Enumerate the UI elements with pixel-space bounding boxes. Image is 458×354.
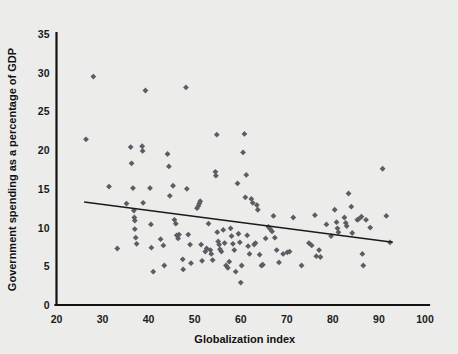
data-point-marker — [147, 185, 153, 191]
data-point-marker — [244, 232, 250, 238]
data-point-marker — [240, 150, 246, 156]
data-point-marker — [160, 242, 166, 248]
data-point-marker — [132, 226, 138, 232]
data-point-marker — [274, 247, 280, 253]
data-point-marker — [348, 204, 354, 210]
data-point-marker — [318, 254, 324, 260]
data-point-marker — [148, 245, 154, 251]
data-point-marker — [239, 263, 245, 269]
data-point-marker — [130, 185, 136, 191]
x-tick-label: 30 — [97, 313, 109, 325]
data-point-marker — [257, 252, 263, 258]
data-point-marker — [206, 221, 212, 227]
plot-area: 051015202530352030405060708090100Globali… — [0, 0, 458, 354]
y-tick-label: 25 — [38, 105, 50, 117]
data-point-marker — [228, 225, 234, 231]
data-point-marker — [360, 263, 366, 269]
data-point-marker — [276, 260, 282, 266]
data-point-marker — [139, 143, 145, 149]
data-point-marker — [220, 227, 226, 233]
data-point-marker — [180, 256, 186, 262]
data-point-marker — [231, 247, 237, 253]
y-tick-label: 30 — [38, 67, 50, 79]
data-point-marker — [367, 225, 373, 231]
data-point-marker — [161, 263, 167, 269]
data-point-marker — [316, 247, 322, 253]
data-point-marker — [324, 222, 330, 228]
data-point-marker — [247, 251, 253, 257]
data-point-marker — [166, 164, 172, 170]
data-point-marker — [272, 235, 278, 241]
data-point-marker — [185, 232, 191, 238]
data-point-marker — [134, 241, 140, 247]
data-point-marker — [222, 240, 228, 246]
x-tick-label: 80 — [327, 313, 339, 325]
data-point-marker — [237, 239, 243, 245]
y-tick-label: 10 — [38, 222, 50, 234]
data-point-marker — [83, 136, 89, 142]
y-tick-label: 0 — [44, 299, 50, 311]
data-point-marker — [210, 257, 216, 263]
data-point-marker — [214, 229, 220, 235]
data-point-marker — [383, 213, 389, 219]
data-point-marker — [226, 259, 232, 265]
data-point-marker — [332, 207, 338, 213]
data-point-marker — [148, 222, 154, 228]
data-point-marker — [170, 183, 176, 189]
data-point-marker — [90, 74, 96, 80]
data-point-marker — [363, 217, 369, 223]
data-point-marker — [150, 269, 156, 275]
data-point-marker — [242, 194, 248, 200]
data-point-marker — [143, 88, 149, 94]
x-tick-label: 40 — [143, 313, 155, 325]
data-point-marker — [167, 193, 173, 199]
data-point-marker — [380, 166, 386, 172]
data-point-marker — [184, 186, 190, 192]
data-point-marker — [114, 246, 120, 252]
data-point-marker — [187, 242, 193, 248]
data-point-marker — [213, 173, 219, 179]
data-point-marker — [140, 200, 146, 206]
x-tick-label: 20 — [51, 313, 63, 325]
data-point-marker — [243, 172, 249, 178]
data-point-marker — [233, 269, 239, 275]
data-point-marker — [198, 242, 204, 248]
data-point-marker — [359, 251, 365, 257]
x-tick-label: 100 — [416, 313, 434, 325]
data-point-marker — [334, 219, 340, 225]
data-point-marker — [229, 233, 235, 239]
data-point-marker — [349, 230, 355, 236]
data-point-marker — [238, 280, 244, 286]
y-tick-label: 35 — [38, 28, 50, 40]
x-tick-label: 70 — [281, 313, 293, 325]
x-tick-label: 90 — [373, 313, 385, 325]
scatter-chart: 051015202530352030405060708090100Globali… — [0, 0, 458, 354]
data-point-marker — [235, 181, 241, 187]
y-tick-label: 5 — [44, 260, 50, 272]
data-point-marker — [236, 231, 242, 237]
data-point-marker — [208, 251, 214, 257]
data-point-marker — [263, 236, 269, 242]
data-point-marker — [158, 236, 164, 242]
y-axis-title: Government spending as a percentage of G… — [6, 48, 18, 291]
data-point-marker — [290, 215, 296, 221]
data-point-marker — [133, 235, 139, 241]
data-point-marker — [312, 212, 318, 218]
y-tick-label: 15 — [38, 183, 50, 195]
data-point-marker — [242, 131, 248, 137]
data-point-marker — [106, 184, 112, 190]
x-tick-label: 60 — [235, 313, 247, 325]
data-point-marker — [341, 215, 347, 221]
data-point-marker — [183, 85, 189, 91]
data-point-marker — [188, 260, 194, 266]
data-point-marker — [199, 258, 205, 264]
data-point-marker — [230, 241, 236, 247]
data-point-marker — [271, 213, 277, 219]
x-axis-title: Globalization index — [194, 333, 296, 345]
data-point-marker — [214, 132, 220, 138]
data-point-marker — [346, 191, 352, 197]
data-point-marker — [245, 243, 251, 249]
data-point-marker — [124, 201, 130, 207]
y-tick-label: 20 — [38, 144, 50, 156]
x-tick-label: 50 — [189, 313, 201, 325]
